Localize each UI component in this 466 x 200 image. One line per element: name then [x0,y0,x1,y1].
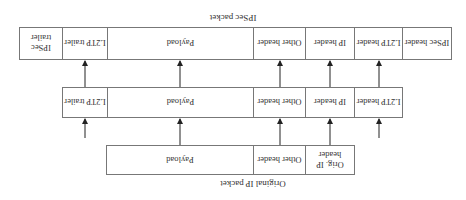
arrows [0,0,466,200]
encapsulation-diagram: Original IP packet Orig. IP header Other… [0,0,466,200]
